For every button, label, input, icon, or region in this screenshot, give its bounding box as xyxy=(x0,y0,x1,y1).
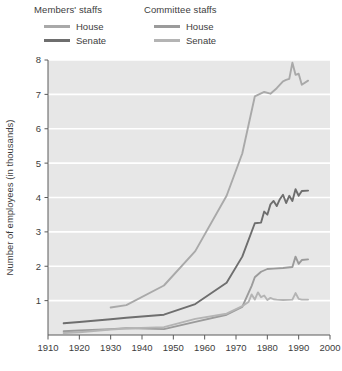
legend-group-title: Committee staffs xyxy=(144,4,217,15)
legend-label-members-senate: Senate xyxy=(76,35,106,46)
y-axis-tick-label: 8 xyxy=(36,54,41,65)
y-axis-title-text: Number of employees (in thousands) xyxy=(4,120,15,276)
x-axis-tick-label: 1920 xyxy=(69,342,90,353)
legend-item-committee-house[interactable]: House xyxy=(144,19,217,33)
x-axis: 1910192019301940195019601970198019902000 xyxy=(37,335,340,353)
legend-label-committee-senate: Senate xyxy=(186,35,216,46)
y-axis-tick-label: 4 xyxy=(36,192,41,203)
legend-group-committee-staffs: Committee staffs House Senate xyxy=(144,4,217,47)
legend-label-members-house: House xyxy=(76,21,103,32)
x-axis-tick-label: 1940 xyxy=(131,342,152,353)
y-axis-tick-label: 5 xyxy=(36,158,41,169)
y-axis: 12345678 xyxy=(36,54,48,335)
legend-item-members-senate[interactable]: Senate xyxy=(34,33,106,47)
legend-group-members-staffs: Members' staffs House Senate xyxy=(34,4,106,47)
chart-canvas: 12345678 1910192019301940195019601970198… xyxy=(0,52,342,371)
x-axis-tick-label: 1970 xyxy=(225,342,246,353)
x-axis-tick-label: 1930 xyxy=(100,342,121,353)
x-axis-tick-label: 1950 xyxy=(163,342,184,353)
x-axis-tick-label: 1980 xyxy=(257,342,278,353)
x-axis-tick-label: 1990 xyxy=(288,342,309,353)
legend-label-committee-house: House xyxy=(186,21,213,32)
y-axis-tick-label: 2 xyxy=(36,261,41,272)
legend-swatch-members-senate xyxy=(44,39,70,42)
y-axis-tick-label: 6 xyxy=(36,123,41,134)
chart-legend: Members' staffs House Senate Committee s… xyxy=(0,0,342,52)
legend-swatch-members-house xyxy=(44,25,70,28)
y-axis-tick-label: 3 xyxy=(36,226,41,237)
legend-group-title: Members' staffs xyxy=(34,4,106,15)
line-chart: 12345678 1910192019301940195019601970198… xyxy=(0,52,342,371)
y-axis-title: Number of employees (in thousands) xyxy=(4,120,15,276)
legend-swatch-committee-house xyxy=(154,25,180,28)
legend-item-members-house[interactable]: House xyxy=(34,19,106,33)
x-axis-tick-label: 2000 xyxy=(319,342,340,353)
legend-swatch-committee-senate xyxy=(154,39,180,42)
x-axis-tick-label: 1960 xyxy=(194,342,215,353)
x-axis-tick-label: 1910 xyxy=(37,342,58,353)
y-axis-tick-label: 7 xyxy=(36,89,41,100)
legend-item-committee-senate[interactable]: Senate xyxy=(144,33,217,47)
y-axis-tick-label: 1 xyxy=(36,295,41,306)
